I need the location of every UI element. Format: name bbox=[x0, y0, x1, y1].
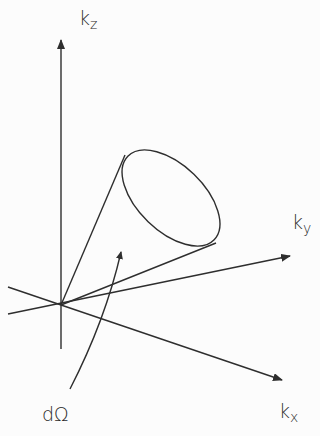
kz-label: kz bbox=[79, 9, 97, 28]
solid-angle-arrow bbox=[70, 252, 121, 389]
cone-base-ellipse bbox=[105, 133, 237, 264]
ky-label: ky bbox=[292, 213, 311, 232]
diagram-svg bbox=[0, 0, 320, 436]
kx-axis bbox=[8, 287, 282, 380]
solid-angle-label: dΩ bbox=[42, 405, 69, 424]
ky-axis bbox=[8, 256, 290, 314]
kx-label: kx bbox=[279, 402, 298, 421]
cone-edge-lower bbox=[61, 243, 216, 305]
k-space-diagram: kz ky kx dΩ bbox=[0, 0, 320, 436]
